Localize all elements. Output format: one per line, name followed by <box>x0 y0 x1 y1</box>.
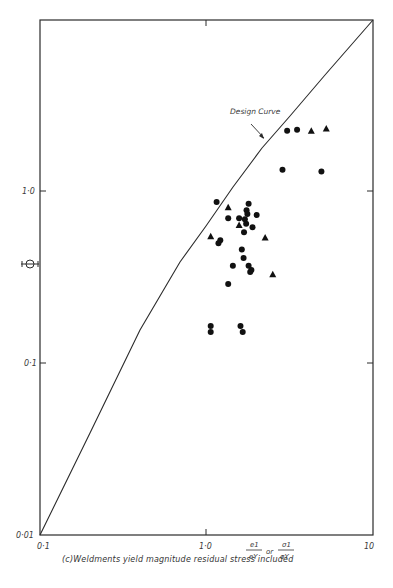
triangle-marker <box>262 234 269 241</box>
circle-marker <box>279 167 285 173</box>
circle-marker <box>241 229 247 235</box>
circle-marker <box>239 247 245 253</box>
svg-text:e1: e1 <box>250 541 259 549</box>
circle-marker <box>208 329 214 335</box>
x-tick-label: 0·1 <box>37 542 50 551</box>
triangle-marker <box>236 221 243 228</box>
circle-marker <box>225 281 231 287</box>
circle-marker <box>250 224 256 230</box>
circle-marker <box>236 215 242 221</box>
plot-frame <box>40 20 373 535</box>
chart-canvas: 1·0 0·1 0·01 0·1 1·0 10 e1 eY or σ1 σY D… <box>0 0 393 588</box>
triangle-marker <box>323 125 330 132</box>
circle-marker <box>214 199 220 205</box>
triangle-marker <box>207 233 214 240</box>
svg-text:σ1: σ1 <box>282 541 291 549</box>
circle-marker <box>284 128 290 134</box>
circle-marker <box>230 263 236 269</box>
circle-marker <box>246 201 252 207</box>
y-tick-label: 1·0 <box>22 187 35 196</box>
circle-marker <box>247 269 253 275</box>
circle-marker <box>225 215 231 221</box>
circle-marker <box>244 211 250 217</box>
triangle-marker <box>225 204 232 211</box>
triangle-marker <box>308 127 315 133</box>
design-curve-label: Design Curve <box>230 107 281 116</box>
circle-marker <box>217 237 223 243</box>
y-axis-label <box>21 260 39 268</box>
circle-marker <box>243 221 249 227</box>
circle-marker <box>294 127 300 133</box>
circle-marker <box>241 255 247 261</box>
y-tick-label: 0·1 <box>24 359 37 368</box>
x-tick-label: 10 <box>364 542 374 551</box>
x-tick-label: 1·0 <box>199 542 212 551</box>
circle-marker <box>237 323 243 329</box>
design-curve <box>40 20 373 535</box>
circle-marker <box>254 212 260 218</box>
circle-marker <box>240 329 246 335</box>
triangle-marker <box>269 271 276 278</box>
y-tick-label: 0·01 <box>16 531 34 540</box>
axis-ticks <box>40 20 373 535</box>
circle-marker <box>208 323 214 329</box>
figure-caption: (c)Weldments yield magnitude residual st… <box>62 555 293 564</box>
circle-marker <box>318 168 324 174</box>
data-markers <box>207 125 330 335</box>
